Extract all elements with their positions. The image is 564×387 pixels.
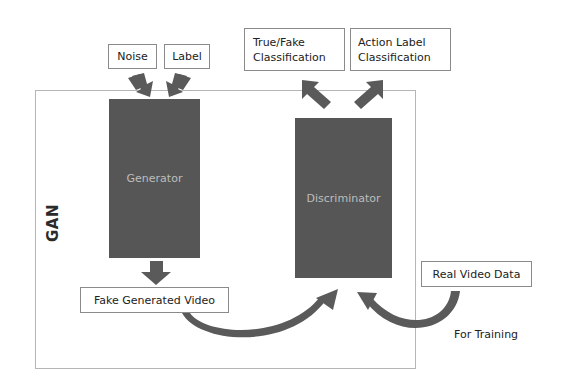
generator-to-fake-video-arrow-icon xyxy=(141,261,171,285)
discriminator-to-action-arrow-icon xyxy=(354,80,383,109)
real-video-to-discriminator-arrow-icon xyxy=(357,291,460,328)
label-to-generator-arrow-icon xyxy=(166,73,191,97)
discriminator-to-truefake-arrow-icon xyxy=(302,80,331,109)
fake-video-to-discriminator-arrow-icon xyxy=(182,289,338,337)
gan-diagram: GAN Noise Label True/Fake Classification… xyxy=(0,0,564,387)
noise-to-generator-arrow-icon xyxy=(128,73,153,97)
arrows-layer xyxy=(0,0,564,387)
